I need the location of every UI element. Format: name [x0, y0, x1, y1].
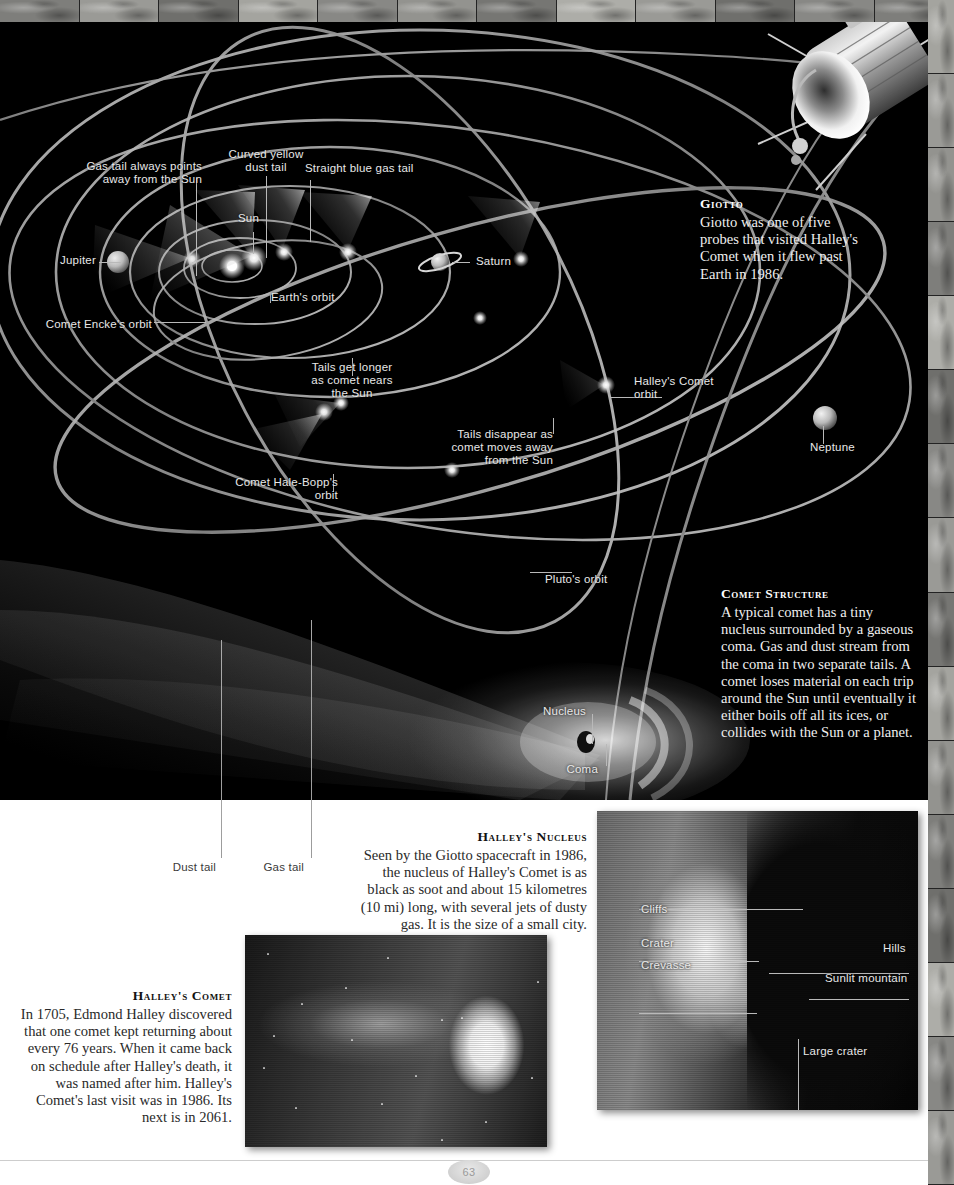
tile: [80, 0, 160, 22]
tile: [795, 0, 875, 22]
tile: [928, 0, 954, 74]
caption-comet-structure: Comet Structure A typical comet has a ti…: [721, 586, 917, 742]
tile: [928, 815, 954, 889]
tile: [928, 1111, 954, 1185]
leader-encke-orbit: [154, 322, 206, 323]
caption-halleys-comet-title: Halley's Comet: [18, 988, 232, 1004]
label-coma: Coma: [540, 763, 598, 776]
label-dust-tail: Dust tail: [160, 861, 216, 874]
leader-blue-gas-tail: [310, 180, 311, 242]
decorative-tile-strip-top: [0, 0, 954, 22]
leader-large-crater: [798, 1039, 799, 1110]
photo-halleys-comet: [245, 935, 547, 1147]
tile: [928, 148, 954, 222]
label-neptune: Neptune: [810, 441, 855, 454]
tile: [928, 444, 954, 518]
label-crater: Crater: [641, 937, 674, 950]
leader-dust-tail: [266, 176, 267, 258]
label-halleys-comet-orbit: Halley's Comet orbit: [634, 375, 744, 401]
caption-halleys-nucleus-body: Seen by the Giotto spacecraft in 1986, t…: [355, 847, 587, 933]
page-number: 63: [448, 1160, 490, 1184]
photo-halleys-nucleus: Cliffs Crater Crevasse Hills Sunlit moun…: [597, 811, 918, 1110]
label-sunlit-mountain: Sunlit mountain: [825, 972, 907, 985]
leader-saturn: [452, 262, 470, 263]
tile: [928, 370, 954, 444]
leader-nucleus: [592, 714, 593, 744]
page-root: Gas tail always points away from the Sun…: [0, 0, 954, 1185]
leader-gas-tail-away: [196, 178, 197, 276]
tile: [477, 0, 557, 22]
caption-halleys-nucleus: Halley's Nucleus Seen by the Giotto spac…: [355, 829, 587, 933]
tile: [928, 667, 954, 741]
caption-halleys-comet-body: In 1705, Edmond Halley discovered that o…: [18, 1006, 232, 1126]
tile: [928, 741, 954, 815]
label-large-crater: Large crater: [803, 1045, 867, 1058]
tile: [636, 0, 716, 22]
caption-giotto: Giotto Giotto was one of five probes tha…: [700, 196, 872, 283]
leader-sun: [253, 232, 254, 254]
label-gas-tail: Gas tail: [250, 861, 304, 874]
leader-jupiter: [99, 262, 121, 263]
decorative-tile-strip-right: [928, 0, 954, 1185]
tile: [928, 74, 954, 148]
giotto-spacecraft-illustration: [756, 0, 928, 194]
caption-halleys-nucleus-title: Halley's Nucleus: [355, 829, 587, 845]
label-crevasse: Crevasse: [641, 959, 691, 972]
label-plutos-orbit: Pluto's orbit: [545, 573, 607, 586]
caption-comet-structure-title: Comet Structure: [721, 586, 917, 602]
label-nucleus: Nucleus: [520, 705, 586, 718]
label-saturn: Saturn: [476, 255, 511, 268]
label-comet-enckes-orbit: Comet Encke's orbit: [30, 318, 152, 331]
label-gas-tail-always-points: Gas tail always points away from the Sun: [62, 160, 202, 186]
label-hills: Hills: [883, 942, 906, 955]
leader-tails-disappear: [553, 418, 554, 434]
caption-comet-structure-body: A typical comet has a tiny nucleus surro…: [721, 604, 917, 742]
tile: [928, 1037, 954, 1111]
leader-gas-tail-lower: [311, 620, 312, 858]
tile: [398, 0, 478, 22]
leader-dust-tail-lower: [221, 640, 222, 858]
label-straight-blue-gas-tail: Straight blue gas tail: [305, 162, 455, 175]
neptune-glyph: [813, 406, 837, 430]
label-cliffs: Cliffs: [641, 903, 668, 916]
tile: [159, 0, 239, 22]
label-tails-disappear: Tails disappear as comet moves away from…: [441, 428, 553, 467]
tile: [928, 889, 954, 963]
label-earths-orbit: Earth's orbit: [271, 291, 335, 304]
label-sun: Sun: [238, 212, 259, 225]
leader-crevasse: [639, 1013, 757, 1014]
tile: [928, 296, 954, 370]
caption-giotto-body: Giotto was one of five probes that visit…: [700, 214, 872, 283]
tile: [928, 963, 954, 1037]
tile: [928, 222, 954, 296]
label-jupiter: Jupiter: [20, 254, 96, 267]
tile: [0, 0, 80, 22]
photo-halleys-comet-image: [245, 935, 547, 1147]
leader-coma: [606, 744, 607, 766]
tile: [928, 518, 954, 592]
caption-giotto-title: Giotto: [700, 196, 872, 212]
tile: [716, 0, 796, 22]
tile: [239, 0, 319, 22]
caption-halleys-comet: Halley's Comet In 1705, Edmond Halley di…: [18, 988, 232, 1126]
tile: [318, 0, 398, 22]
leader-sunlit-mountain: [809, 999, 909, 1000]
label-tails-get-longer: Tails get longer as comet nears the Sun: [300, 361, 404, 400]
tile: [557, 0, 637, 22]
label-comet-hale-bopps-orbit: Comet Hale-Bopp's orbit: [226, 476, 338, 502]
tile: [928, 593, 954, 667]
